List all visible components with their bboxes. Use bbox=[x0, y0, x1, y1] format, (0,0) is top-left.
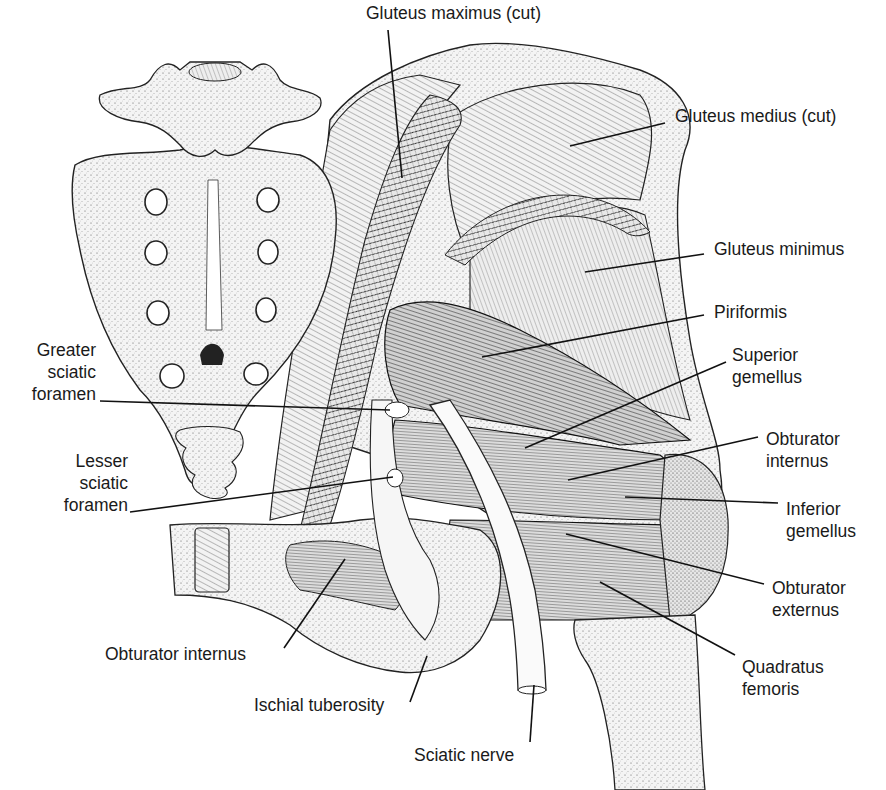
label-greater-sciatic-foramen: Greatersciaticforamen bbox=[18, 339, 96, 405]
coccyx bbox=[176, 426, 244, 498]
label-gluteus-maximus: Gluteus maximus (cut) bbox=[366, 2, 541, 24]
label-superior-gemellus: Superiorgemellus bbox=[732, 344, 802, 388]
label-obturator-externus: Obturatorexternus bbox=[772, 577, 846, 621]
label-ischial-tuberosity: Ischial tuberosity bbox=[254, 694, 384, 716]
femur-shaft bbox=[574, 615, 705, 790]
label-gluteus-medius: Gluteus medius (cut) bbox=[675, 105, 836, 127]
label-lesser-sciatic-foramen: Lessersciaticforamen bbox=[50, 450, 128, 516]
label-quadratus-femoris: Quadratusfemoris bbox=[742, 656, 824, 700]
anatomy-figure: Gluteus maximus (cut) Gluteus medius (cu… bbox=[0, 0, 886, 790]
label-gluteus-minimus: Gluteus minimus bbox=[714, 238, 844, 260]
label-obturator-internus-right: Obturatorinternus bbox=[766, 428, 840, 472]
label-piriformis: Piriformis bbox=[714, 301, 787, 323]
sciatic-nerve-cut-end bbox=[518, 686, 546, 694]
pubic-ramus-cut bbox=[195, 528, 229, 592]
label-obturator-internus-left: Obturator internus bbox=[105, 643, 246, 665]
label-sciatic-nerve: Sciatic nerve bbox=[414, 744, 514, 766]
vertebral-body bbox=[189, 63, 241, 81]
label-inferior-gemellus: Inferiorgemellus bbox=[786, 498, 856, 542]
leader-lesser-sciatic-foramen bbox=[130, 477, 393, 512]
